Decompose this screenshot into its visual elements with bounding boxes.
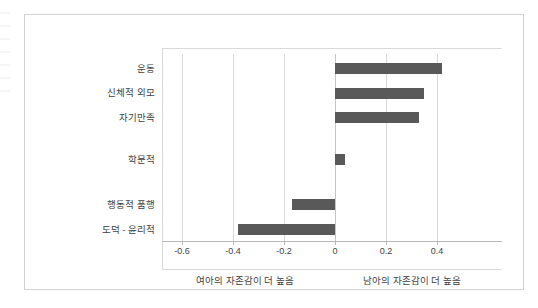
gridline-neg-0-6	[182, 54, 183, 241]
gridline-pos-0-2	[386, 54, 387, 241]
xtick-label-5: 0.4	[417, 246, 457, 256]
gridline-zero	[335, 54, 336, 241]
category-label-0: 운동	[33, 63, 155, 74]
category-label-3: 학문적	[33, 154, 155, 165]
x-axis-line	[162, 241, 502, 242]
tick-pos-0-4	[437, 241, 438, 245]
xtick-label-0: -0.6	[162, 246, 202, 256]
category-label-1: 신체적 외모	[33, 87, 155, 98]
gridline-pos-0-4	[437, 54, 438, 241]
tick-neg-0-6	[182, 241, 183, 245]
gridline-neg-0-2	[284, 54, 285, 241]
xtick-label-3: 0	[315, 246, 355, 256]
category-label-2: 자기만족	[33, 112, 155, 123]
tick-neg-0-4	[233, 241, 234, 245]
xtick-label-4: 0.2	[366, 246, 406, 256]
category-label-5: 도덕 - 윤리적	[33, 224, 155, 235]
right-direction-note: 남아의 자존감이 더 높음	[337, 273, 487, 287]
xtick-label-1: -0.4	[213, 246, 253, 256]
gridlines-layer	[162, 54, 502, 241]
tick-zero	[335, 241, 336, 245]
chart-figure-frame: 운동 신체적 외모 자기만족 학문적 행동적 품행 도덕 - 윤리적 -0.6 …	[24, 14, 524, 290]
tick-neg-0-2	[284, 241, 285, 245]
xtick-label-2: -0.2	[264, 246, 304, 256]
left-direction-note: 여아의 자존감이 더 높음	[175, 273, 315, 287]
gridline-neg-0-4	[233, 54, 234, 241]
category-labels: 운동 신체적 외모 자기만족 학문적 행동적 품행 도덕 - 윤리적	[25, 15, 155, 308]
tick-pos-0-2	[386, 241, 387, 245]
page-edge-artifact	[0, 12, 10, 98]
category-label-4: 행동적 품행	[33, 199, 155, 210]
